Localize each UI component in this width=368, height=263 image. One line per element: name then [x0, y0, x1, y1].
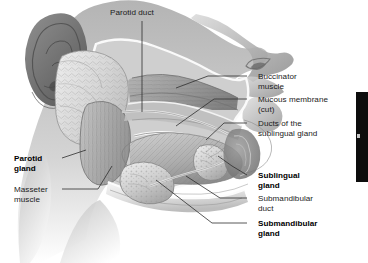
edge-bar-notch [357, 134, 360, 138]
leader-sublingual-gland [218, 156, 247, 175]
label-buccinator-muscle: Buccinator muscle [258, 72, 297, 91]
label-sublingual-gland: Sublingual gland [258, 171, 300, 190]
right-edge-dark-bar [356, 92, 368, 182]
label-masseter-muscle: Masseter muscle [14, 185, 48, 204]
label-parotid-gland: Parotid gland [14, 154, 42, 173]
label-submandibular-gland: Submandibular gland [258, 219, 318, 238]
leader-submandibular-duct [186, 176, 247, 198]
leader-parotid-gland [62, 150, 86, 158]
leader-masseter [62, 166, 112, 189]
leader-buccinator [176, 76, 247, 88]
label-parotid-duct: Parotid duct [110, 8, 154, 18]
label-ducts-of-sublingual-gland: Ducts of the sublingual gland [258, 119, 317, 138]
anatomy-figure: Parotid duct Buccinator muscle Mucous me… [0, 0, 368, 263]
leader-ducts-sublingual [206, 123, 247, 140]
leader-mucous-membrane [176, 99, 247, 126]
label-submandibular-duct: Submandibular duct [258, 194, 313, 213]
label-mucous-membrane-cut: Mucous membrane (cut) [258, 95, 328, 114]
